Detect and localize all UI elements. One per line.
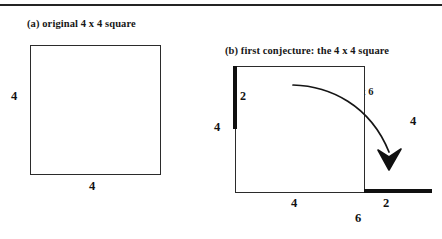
- panel-b-label-bottom-left: 4: [291, 196, 297, 211]
- panel-a-square: [30, 45, 161, 175]
- figure-page: (a) original 4 x 4 square 4 4 (b) first …: [0, 0, 442, 239]
- panel-b-label-right: 4: [410, 114, 416, 129]
- panel-a-label-left: 4: [11, 89, 17, 104]
- panel-b-bold-left-segment: [233, 66, 237, 129]
- panel-b-label-bottom-total: 6: [355, 211, 361, 226]
- panel-a-label-bottom: 4: [89, 179, 95, 194]
- panel-b-caption-line1: (b) first conjecture: the 4 x 4 square: [225, 44, 425, 58]
- panel-b-label-bold-vertical: 2: [240, 89, 246, 104]
- panel-b-label-bottom-right: 2: [383, 196, 389, 211]
- panel-a-caption: (a) original 4 x 4 square: [27, 17, 207, 31]
- panel-b-square: [235, 66, 365, 193]
- panel-b-label-left: 4: [214, 120, 220, 135]
- header-rule: [0, 4, 442, 6]
- panel-b-bold-bottom-segment: [364, 189, 432, 193]
